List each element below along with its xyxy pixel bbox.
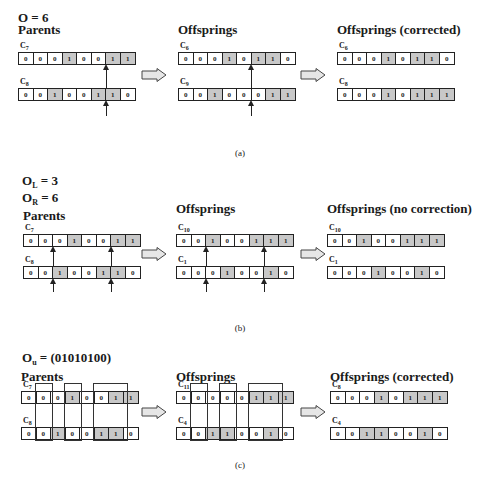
gene-cell: 1 [250, 235, 265, 246]
group-heading: Offsprings (corrected) [337, 22, 461, 38]
chromosome-label: C8 [339, 78, 348, 88]
label-subscript: 7 [31, 227, 34, 233]
gene-cell: 0 [177, 235, 192, 246]
gene-cell: 1 [68, 235, 83, 246]
gene-cell: 0 [179, 89, 194, 100]
gene-cell: 0 [353, 89, 368, 100]
gene-cell: 0 [77, 53, 92, 64]
gene-cell: 1 [375, 392, 390, 403]
gene-cell: 0 [97, 235, 112, 246]
gene-cell: 1 [221, 267, 236, 278]
gene-cell: 0 [346, 428, 361, 439]
chromosome-label: C1 [329, 256, 338, 266]
gene-cell: 0 [338, 89, 353, 100]
gene-cell: 1 [401, 235, 416, 246]
chromosome: 00100110 [23, 266, 141, 279]
gene-cell: 0 [389, 428, 404, 439]
panel-caption: (b) [220, 323, 260, 333]
gene-cell: 0 [331, 428, 346, 439]
transition-arrow-icon [141, 247, 165, 261]
gene-cell: 0 [223, 89, 238, 100]
gene-cell: 1 [372, 267, 387, 278]
gene-cell: 1 [266, 53, 281, 64]
crossover-mask-box [190, 383, 209, 441]
chromosome-label: C10 [329, 224, 341, 234]
crossover-line [53, 251, 54, 266]
gene-cell: 0 [360, 392, 375, 403]
gene-cell: 0 [194, 89, 209, 100]
crossover-line [111, 283, 112, 292]
gene-cell: 1 [411, 89, 426, 100]
gene-cell: 1 [121, 53, 136, 64]
panel-caption: (a) [220, 148, 260, 158]
crossover-mask-box [35, 383, 54, 441]
gene-cell: 0 [208, 53, 223, 64]
gene-cell: 0 [250, 267, 265, 278]
gene-cell: 1 [281, 89, 296, 100]
gene-cell: 1 [415, 235, 430, 246]
gene-cell: 0 [396, 89, 411, 100]
gene-cell: 1 [208, 89, 223, 100]
label-subscript: 10 [335, 227, 341, 233]
gene-cell: 0 [357, 267, 372, 278]
gene-cell: 1 [382, 89, 397, 100]
chromosome-label: C7 [20, 42, 29, 52]
transition-arrow-icon [300, 405, 324, 419]
gene-cell: 1 [92, 89, 107, 100]
chromosome: 00010111 [337, 88, 455, 101]
chromosome-label: C7 [23, 381, 32, 391]
gene-cell: 1 [53, 267, 68, 278]
gene-cell: 0 [343, 267, 358, 278]
chromosome: 00100111 [327, 234, 445, 247]
gene-cell: 0 [353, 53, 368, 64]
label-subscript: 1 [184, 259, 187, 265]
chromosome: 00100011 [178, 88, 296, 101]
chromosome: 00100111 [176, 234, 294, 247]
crossover-line [53, 283, 54, 292]
gene-cell: 1 [382, 53, 397, 64]
gene-cell: 0 [389, 392, 404, 403]
crossover-arrow-icon [203, 246, 209, 252]
gene-cell: 1 [252, 53, 267, 64]
gene-cell: 1 [206, 235, 221, 246]
group-heading: Parents [18, 22, 60, 38]
gene-cell: 1 [266, 89, 281, 100]
gene-cell: 0 [237, 89, 252, 100]
gene-cell: 0 [194, 53, 209, 64]
transition-arrow-icon [141, 68, 165, 82]
chromosome-label: C10 [178, 224, 190, 234]
gene-cell: 0 [372, 235, 387, 246]
chromosome-label: C11 [178, 381, 189, 391]
chromosome-label: C1 [178, 256, 187, 266]
gene-cell: 0 [82, 235, 97, 246]
gene-cell: 1 [223, 53, 238, 64]
gene-cell: 0 [281, 53, 296, 64]
gene-cell: 0 [206, 267, 221, 278]
chromosome: 00010110 [178, 52, 296, 65]
crossover-arrow-icon [50, 278, 56, 284]
gene-cell: 0 [386, 267, 401, 278]
gene-cell: 1 [264, 235, 279, 246]
gene-cell: 1 [415, 267, 430, 278]
transition-arrow-icon [141, 405, 165, 419]
crossover-line [251, 69, 252, 88]
gene-cell: 0 [77, 89, 92, 100]
crossover-arrow-icon [50, 246, 56, 252]
gene-cell: 0 [343, 235, 358, 246]
crossover-arrow-icon [261, 246, 267, 252]
gene-cell: 0 [386, 235, 401, 246]
gene-cell: 0 [34, 89, 49, 100]
label-subscript: 8 [338, 384, 341, 390]
chromosome: 00010110 [337, 52, 455, 65]
chromosome: 00010011 [23, 234, 141, 247]
gene-cell: 1 [425, 53, 440, 64]
gene-cell: 0 [24, 267, 39, 278]
crossover-arrow-icon [103, 100, 109, 106]
gene-cell: 1 [106, 53, 121, 64]
crossover-line [264, 283, 265, 292]
chromosome: 00010111 [330, 391, 448, 404]
crossover-mask-box [248, 383, 283, 441]
label-subscript: 7 [29, 384, 32, 390]
gene-cell: 0 [177, 267, 192, 278]
gene-cell: 1 [357, 235, 372, 246]
